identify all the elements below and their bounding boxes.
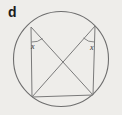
angle-label-top-left: x [31, 43, 35, 51]
angle-label-top-right: x [90, 44, 94, 52]
geometry-drawing [0, 0, 122, 115]
circle-geometry-figure: d x x [0, 0, 122, 115]
chord-bottom-side [32, 95, 93, 97]
chord-diagonal-tl-br [31, 27, 93, 95]
part-label-d: d [8, 5, 17, 19]
angle-arc-top-right [84, 38, 95, 42]
chord-right-side [93, 26, 95, 95]
chord-left-side [31, 27, 32, 97]
